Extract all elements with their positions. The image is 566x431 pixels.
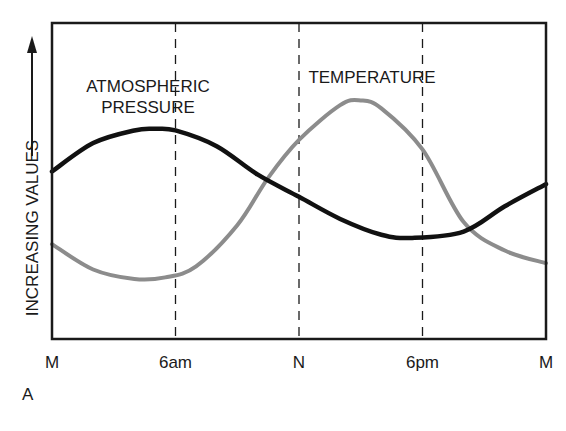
y-axis: INCREASING VALUES (23, 36, 42, 316)
x-tick-label: 6am (159, 353, 192, 372)
series-label: ATMOSPHERIC (86, 77, 209, 96)
y-axis-label: INCREASING VALUES (23, 140, 42, 316)
x-tick-label: M (45, 353, 59, 372)
x-axis-tick-labels: M6amN6pmM (45, 353, 553, 372)
series-label: TEMPERATURE (308, 68, 435, 87)
plot-frame (52, 23, 546, 339)
series-label: PRESSURE (101, 98, 195, 117)
x-tick-label: M (539, 353, 553, 372)
x-tick-label: 6pm (406, 353, 439, 372)
x-tick-label: N (293, 353, 305, 372)
chart: ATMOSPHERICPRESSURETEMPERATURE M6amN6pmM… (0, 0, 566, 431)
up-arrow-icon (27, 36, 37, 53)
panel-label: A (22, 385, 34, 404)
